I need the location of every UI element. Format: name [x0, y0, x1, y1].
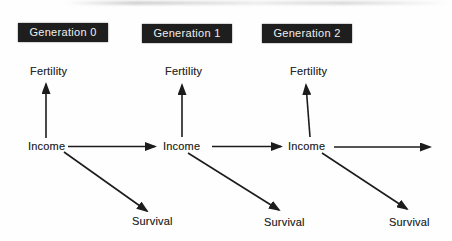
income-to-survival-arrow-gen1: [188, 153, 279, 210]
survival-label-gen2: Survival: [389, 216, 430, 228]
fertility-label-gen1: Fertility: [165, 65, 202, 77]
generation-0-box: Generation 0: [18, 23, 108, 42]
generation-1-box: Generation 1: [142, 24, 232, 43]
income-to-fertility-arrow-gen2: [306, 85, 310, 137]
fertility-label-gen2: Fertility: [290, 65, 327, 77]
income-label-gen1: Income: [163, 140, 200, 152]
fertility-label-gen0: Fertility: [30, 65, 67, 77]
survival-label-gen0: Survival: [132, 215, 173, 227]
diagram-canvas: Generation 0 Generation 1 Generation 2 F…: [0, 0, 452, 241]
survival-label-gen1: Survival: [264, 216, 305, 228]
generation-2-box: Generation 2: [262, 24, 352, 43]
income-to-survival-arrow-gen2: [322, 153, 407, 209]
income-to-survival-arrow-gen0: [64, 152, 147, 211]
income-label-gen0: Income: [28, 140, 65, 152]
income-label-gen2: Income: [288, 140, 325, 152]
